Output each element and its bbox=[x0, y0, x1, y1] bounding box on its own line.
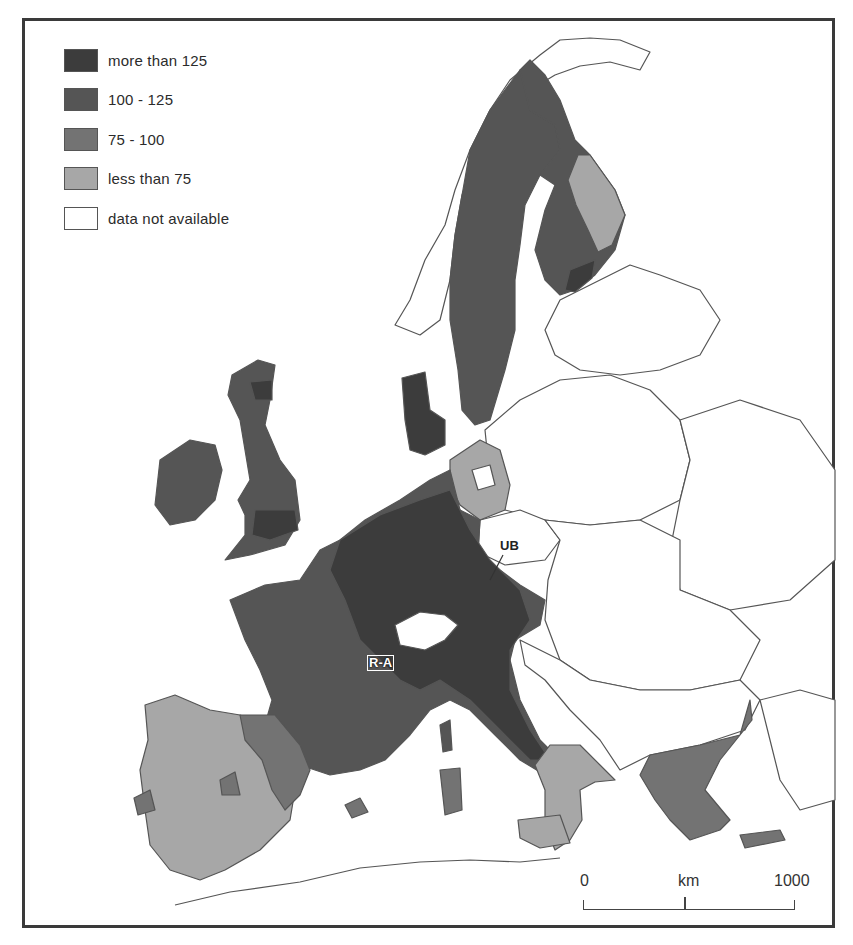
region-poland bbox=[485, 375, 690, 525]
map-legend: more than 125 100 - 125 75 - 100 less th… bbox=[64, 48, 229, 246]
map-label-ub: UB bbox=[499, 539, 520, 553]
legend-item-more-than-125: more than 125 bbox=[64, 48, 229, 72]
legend-label: 75 - 100 bbox=[108, 131, 165, 148]
scale-bar: 0 km 1000 bbox=[578, 872, 798, 922]
region-sicily bbox=[518, 815, 570, 848]
legend-swatch bbox=[64, 88, 98, 111]
region-ireland bbox=[155, 440, 222, 525]
legend-item-less-than-75: less than 75 bbox=[64, 167, 229, 191]
region-crete bbox=[740, 830, 785, 848]
legend-label: 100 - 125 bbox=[108, 91, 173, 108]
legend-swatch bbox=[64, 167, 98, 190]
legend-swatch bbox=[64, 207, 98, 230]
scale-bar-midtick bbox=[684, 897, 686, 909]
region-sardinia bbox=[440, 768, 462, 815]
legend-swatch bbox=[64, 49, 98, 72]
map-label-ra: R-A bbox=[367, 655, 394, 671]
legend-item-data-not-available: data not available bbox=[64, 206, 229, 230]
region-ukraine bbox=[670, 400, 835, 610]
legend-label: data not available bbox=[108, 210, 229, 227]
legend-item-100-125: 100 - 125 bbox=[64, 88, 229, 112]
scale-unit-label: km bbox=[678, 872, 699, 890]
region-turkey bbox=[760, 690, 835, 810]
legend-label: more than 125 bbox=[108, 52, 207, 69]
region-balearics bbox=[345, 798, 368, 818]
legend-label: less than 75 bbox=[108, 170, 191, 187]
legend-item-75-100: 75 - 100 bbox=[64, 127, 229, 151]
legend-swatch bbox=[64, 128, 98, 151]
scale-end-label: 1000 bbox=[774, 872, 810, 890]
region-corsica bbox=[440, 720, 452, 752]
region-denmark bbox=[402, 372, 445, 455]
scale-bar-line bbox=[583, 900, 795, 910]
scale-start-label: 0 bbox=[580, 872, 589, 890]
